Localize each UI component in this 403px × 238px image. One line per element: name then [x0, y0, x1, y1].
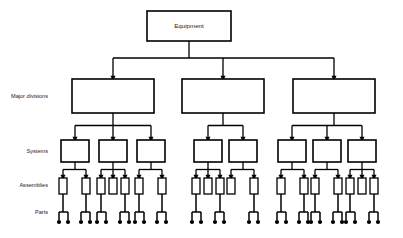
row-label-systems: Systems	[27, 148, 49, 154]
node-system-2-0	[278, 140, 306, 162]
node-part-6-1	[199, 220, 203, 224]
node-assembly-6-1	[334, 178, 342, 194]
node-assembly-4-0	[227, 178, 235, 194]
node-system-0-2	[137, 140, 165, 162]
node-part-4-0	[133, 220, 137, 224]
node-assembly-7-1	[358, 178, 366, 194]
node-part-14-0	[367, 220, 371, 224]
node-system-1-1	[229, 140, 257, 162]
node-part-13-1	[353, 220, 357, 224]
node-part-5-0	[155, 220, 159, 224]
node-part-12-1	[340, 220, 344, 224]
equipment-hierarchy-diagram: Major divisionsSystemsAssembliesParts Eq…	[0, 0, 403, 238]
node-assembly-1-0	[97, 178, 105, 194]
node-assembly-1-2	[121, 178, 129, 194]
node-major-division-2	[293, 79, 375, 113]
row-label-major-divisions: Major divisions	[11, 93, 48, 99]
node-part-1-0	[79, 220, 83, 224]
node-assembly-0-0	[59, 178, 67, 194]
node-assembly-7-2	[370, 178, 378, 194]
diagram-canvas: Major divisionsSystemsAssembliesParts Eq…	[0, 0, 403, 238]
node-part-7-1	[222, 220, 226, 224]
node-part-12-0	[331, 220, 335, 224]
node-label-group: Equipment	[174, 22, 204, 29]
node-part-11-0	[309, 220, 313, 224]
node-assembly-3-1	[204, 178, 212, 194]
node-part-14-1	[376, 220, 380, 224]
node-major-division-1	[182, 79, 264, 113]
node-assembly-6-0	[311, 178, 319, 194]
row-label-parts: Parts	[35, 209, 48, 215]
node-part-1-1	[88, 220, 92, 224]
node-part-7-0	[213, 220, 217, 224]
node-assembly-1-1	[109, 178, 117, 194]
node-part-3-0	[118, 220, 122, 224]
node-major-division-0	[72, 79, 154, 113]
node-part-2-1	[104, 220, 108, 224]
node-part-13-0	[344, 220, 348, 224]
node-part-9-1	[284, 220, 288, 224]
node-assembly-4-1	[250, 178, 258, 194]
node-assembly-5-0	[277, 178, 285, 194]
node-system-1-0	[194, 140, 222, 162]
node-part-5-1	[164, 220, 168, 224]
node-part-8-1	[256, 220, 260, 224]
node-part-0-1	[66, 220, 70, 224]
node-part-6-0	[190, 220, 194, 224]
node-system-0-1	[99, 140, 127, 162]
node-assembly-3-0	[192, 178, 200, 194]
node-part-11-1	[318, 220, 322, 224]
node-box-group	[59, 11, 378, 194]
node-part-10-0	[297, 220, 301, 224]
node-assembly-5-1	[300, 178, 308, 194]
node-system-0-0	[61, 140, 89, 162]
node-assembly-0-1	[82, 178, 90, 194]
node-assembly-3-2	[216, 178, 224, 194]
node-system-2-2	[348, 140, 376, 162]
node-assembly-7-0	[346, 178, 354, 194]
node-part-9-0	[275, 220, 279, 224]
part-dot-group	[57, 220, 380, 224]
node-label-equipment: Equipment	[174, 22, 204, 29]
row-label-assemblies: Assemblies	[19, 182, 48, 188]
node-part-4-1	[142, 220, 146, 224]
node-part-8-0	[247, 220, 251, 224]
node-part-3-1	[127, 220, 131, 224]
row-label-group: Major divisionsSystemsAssembliesParts	[11, 93, 48, 215]
node-assembly-2-0	[135, 178, 143, 194]
node-assembly-2-1	[158, 178, 166, 194]
node-system-2-1	[313, 140, 341, 162]
node-part-2-0	[95, 220, 99, 224]
node-part-0-0	[57, 220, 61, 224]
